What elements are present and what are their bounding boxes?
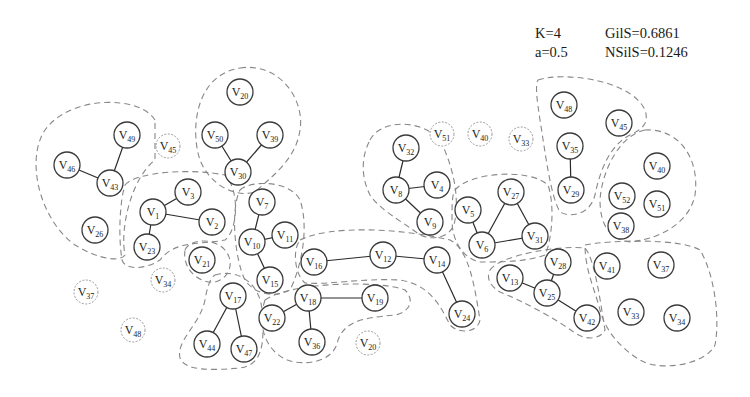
node-v29: V29	[558, 177, 584, 203]
node-v34: V34	[151, 268, 175, 292]
node-v41: V41	[594, 253, 620, 279]
node-v22: V22	[259, 305, 285, 331]
node-v8: V8	[383, 177, 409, 203]
node-v20: V20	[227, 79, 253, 105]
node-v34: V34	[664, 305, 690, 331]
node-v52: V52	[609, 183, 635, 209]
node-v33: V33	[618, 299, 644, 325]
node-v47: V47	[231, 336, 257, 362]
node-v51: V51	[430, 122, 454, 146]
node-v25: V25	[534, 280, 560, 306]
stats-row-2: a=0.5 NSilS=0.1246	[535, 43, 688, 62]
node-v17: V17	[220, 283, 246, 309]
node-v3: V3	[175, 179, 201, 205]
node-v20: V20	[356, 331, 380, 355]
node-v19: V19	[362, 285, 388, 311]
node-v35: V35	[557, 133, 583, 159]
node-v38: V38	[608, 213, 634, 239]
node-v14: V14	[424, 247, 450, 273]
node-v10: V10	[239, 229, 265, 255]
node-v42: V42	[574, 305, 600, 331]
node-v2: V2	[199, 209, 225, 235]
node-v48: V48	[551, 92, 577, 118]
node-v7: V7	[249, 189, 275, 215]
node-v12: V12	[370, 242, 396, 268]
node-v23: V23	[134, 234, 160, 260]
node-v16: V16	[301, 249, 327, 275]
node-v36: V36	[299, 329, 325, 355]
node-v32: V32	[393, 135, 419, 161]
node-v51: V51	[644, 191, 670, 217]
cluster-graph-figure: V46V49V43V26V45V20V50V39V30V3V1V2V23V7V1…	[0, 0, 750, 397]
node-v6: V6	[469, 232, 495, 258]
node-v50: V50	[202, 122, 228, 148]
node-v15: V15	[257, 267, 283, 293]
node-v46: V46	[54, 152, 80, 178]
node-v11: V11	[272, 222, 298, 248]
node-v45: V45	[156, 134, 180, 158]
node-v37: V37	[648, 252, 674, 278]
nodes-layer: V46V49V43V26V45V20V50V39V30V3V1V2V23V7V1…	[54, 79, 690, 362]
k-value: K=4	[535, 24, 605, 43]
node-v4: V4	[424, 172, 450, 198]
node-v18: V18	[295, 285, 321, 311]
node-v31: V31	[522, 223, 548, 249]
node-v49: V49	[114, 122, 140, 148]
node-v43: V43	[97, 170, 123, 196]
node-v45: V45	[606, 110, 632, 136]
node-v30: V30	[225, 159, 251, 185]
node-v40: V40	[468, 122, 492, 146]
node-v39: V39	[257, 122, 283, 148]
stats-panel: K=4 GilS=0.6861 a=0.5 NSilS=0.1246	[535, 24, 688, 62]
nsils-value: NSilS=0.1246	[605, 43, 688, 62]
node-v5: V5	[455, 197, 481, 223]
node-v44: V44	[194, 331, 220, 357]
node-v27: V27	[498, 179, 524, 205]
node-v37: V37	[74, 280, 98, 304]
node-v26: V26	[82, 217, 108, 243]
node-v40: V40	[644, 153, 670, 179]
node-v48: V48	[121, 318, 145, 342]
node-v21: V21	[189, 247, 215, 273]
gils-value: GilS=0.6861	[605, 24, 680, 43]
node-v13: V13	[497, 265, 523, 291]
node-v1: V1	[140, 199, 166, 225]
node-v28: V28	[545, 249, 571, 275]
a-value: a=0.5	[535, 43, 605, 62]
stats-row-1: K=4 GilS=0.6861	[535, 24, 688, 43]
node-v24: V24	[449, 301, 475, 327]
node-v33: V33	[509, 127, 533, 151]
node-v9: V9	[417, 209, 443, 235]
